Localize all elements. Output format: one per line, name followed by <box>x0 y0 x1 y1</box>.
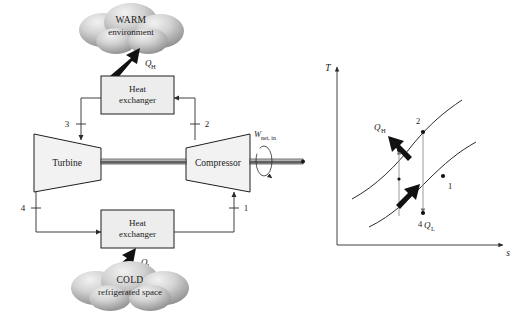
state-label-1: 1 <box>244 203 249 213</box>
ts-state-label-1: 1 <box>448 181 452 191</box>
ts-xlabel: s <box>506 248 510 258</box>
connecting-shaft <box>101 159 186 164</box>
ts-ql-label-subscript: L <box>431 225 435 232</box>
upper-heat-exchanger-line2: exchanger <box>119 95 156 105</box>
warm-cloud-subtitle: environment <box>108 27 154 37</box>
ts-ql-arrow <box>396 184 420 209</box>
ts-ylabel: T <box>325 63 331 73</box>
pipe-1-to-compressor <box>174 192 234 232</box>
compressor-label: Compressor <box>195 158 242 168</box>
warm-environment-cloud: WARM environment <box>79 3 184 54</box>
ts-point-2 <box>421 130 425 134</box>
pipe-3-to-turbine <box>81 98 101 140</box>
cold-cloud-title: COLD <box>116 275 143 285</box>
figure-root: WARM environment Q H Heat exchanger 3 2 <box>0 0 515 322</box>
lower-heat-exchanger-line2: exchanger <box>119 229 156 239</box>
ts-qh-label: Q <box>374 122 381 132</box>
warm-cloud-title: WARM <box>116 15 147 25</box>
shaft-end-cap <box>301 160 305 164</box>
lower-heat-exchanger-line1: Heat <box>129 218 146 228</box>
state-label-3: 3 <box>65 119 70 129</box>
ts-midpoint-marker <box>397 177 400 180</box>
cloud-shape-cold <box>71 261 189 311</box>
ts-state-label-3: 3 <box>390 138 394 148</box>
state-label-2: 2 <box>205 119 210 129</box>
ts-ql-label: Q <box>424 220 431 230</box>
pipe-2-to-heat-exchanger <box>174 98 195 140</box>
state-label-4: 4 <box>21 203 26 213</box>
ts-point-4 <box>421 211 425 215</box>
schematic-panel: WARM environment Q H Heat exchanger 3 2 <box>21 3 305 311</box>
ts-state-label-2: 2 <box>416 116 420 126</box>
cold-refrigerated-space-cloud: COLD refrigerated space <box>71 261 189 311</box>
shaft-rotation-arrow <box>268 175 272 178</box>
turbine-label: Turbine <box>52 158 82 168</box>
work-input-subscript: net, in <box>261 135 276 141</box>
ts-diagram-panel: T s Q H <box>325 63 510 258</box>
ts-qh-label-subscript: H <box>381 127 386 134</box>
qh-label-subscript: H <box>151 63 156 70</box>
figure-canvas: WARM environment Q H Heat exchanger 3 2 <box>0 0 515 322</box>
ts-point-1 <box>441 174 445 178</box>
ts-state-label-4: 4 <box>418 219 423 229</box>
cold-cloud-subtitle: refrigerated space <box>98 287 162 297</box>
drive-shaft <box>250 159 303 164</box>
ts-curve-high-pressure-isobar <box>352 100 462 199</box>
upper-heat-exchanger-line1: Heat <box>129 84 146 94</box>
pipe-4-to-heat-exchanger <box>36 192 101 232</box>
